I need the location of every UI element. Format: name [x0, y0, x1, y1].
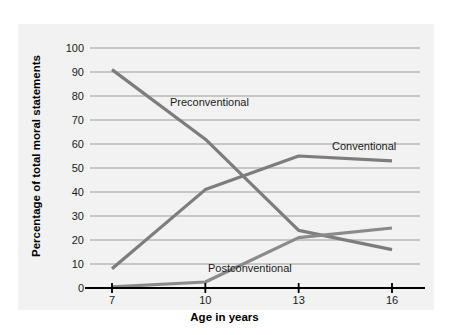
y-tick-label-10: 10 [50, 258, 84, 270]
y-tick-label-90: 90 [50, 66, 84, 78]
y-tick-label-50: 50 [50, 162, 84, 174]
series-line-conventional [112, 156, 392, 269]
y-tick-label-20: 20 [50, 234, 84, 246]
series-lines-group [112, 70, 392, 287]
chart-figure: 0102030405060708090100 7101316 Percentag… [0, 0, 449, 335]
x-axis-title: Age in years [0, 311, 449, 323]
y-tick-label-30: 30 [50, 210, 84, 222]
series-label-postconventional: Postconventional [208, 262, 292, 274]
series-label-preconventional: Preconventional [170, 96, 249, 108]
y-axis-title: Percentage of total moral statements [30, 46, 42, 266]
x-tick-label-10: 10 [185, 294, 225, 306]
y-tick-label-100: 100 [50, 42, 84, 54]
y-tick-label-80: 80 [50, 90, 84, 102]
y-tick-label-0: 0 [50, 282, 84, 294]
x-tick-label-16: 16 [372, 294, 412, 306]
y-tick-label-60: 60 [50, 138, 84, 150]
x-tick-label-13: 13 [279, 294, 319, 306]
series-label-conventional: Conventional [332, 140, 396, 152]
x-tick-label-7: 7 [92, 294, 132, 306]
series-line-postconventional [112, 228, 392, 287]
y-tick-label-70: 70 [50, 114, 84, 126]
y-tick-label-40: 40 [50, 186, 84, 198]
